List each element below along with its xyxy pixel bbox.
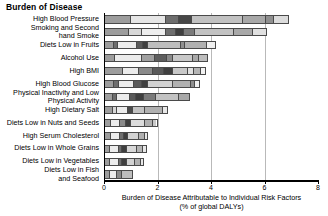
y-axis-label: Diets Low in Fruits <box>0 41 99 49</box>
bar-segment <box>105 94 113 100</box>
stacked-bar[interactable] <box>104 145 147 153</box>
x-tick-label: 8 <box>316 184 320 191</box>
bar-row[interactable] <box>104 145 318 153</box>
x-tick-label: 4 <box>209 184 213 191</box>
y-axis-label: Diets Low in Fish and Seafood <box>0 166 99 183</box>
bar-row[interactable] <box>104 170 318 178</box>
bar-segment <box>156 94 180 100</box>
bar-segment <box>105 55 115 61</box>
bar-segment <box>110 146 119 152</box>
stacked-bar[interactable] <box>104 41 216 49</box>
bar-segment <box>173 68 187 74</box>
bar-segment <box>117 107 129 113</box>
bar-segment <box>105 42 114 48</box>
bar-row[interactable] <box>104 28 318 36</box>
bar-row[interactable] <box>104 54 318 62</box>
stacked-bar[interactable] <box>104 15 289 23</box>
stacked-bar[interactable] <box>104 54 208 62</box>
stacked-bar[interactable] <box>104 132 148 140</box>
bar-segment <box>131 16 165 22</box>
stacked-bar[interactable] <box>104 28 267 36</box>
bar-segment <box>143 146 146 152</box>
bar-segment <box>166 29 177 35</box>
bar-segment <box>105 81 114 87</box>
bar-segment <box>144 94 156 100</box>
y-axis-label: Diets Low in Nuts and Seeds <box>0 119 99 127</box>
x-tick-label: 0 <box>102 184 106 191</box>
bar-segment <box>234 29 252 35</box>
bar-segment <box>128 133 139 139</box>
bar-segment <box>195 81 199 87</box>
y-axis-label: High Serum Cholesterol <box>0 132 99 140</box>
bar-segment <box>105 29 129 35</box>
bar-segment <box>253 29 266 35</box>
bar-row[interactable] <box>104 119 318 127</box>
bar-segment <box>155 55 167 61</box>
y-axis-label: Diets Low in Whole Grains <box>0 144 99 152</box>
stacked-bar[interactable] <box>104 119 158 127</box>
bar-segment <box>105 107 113 113</box>
bar-row[interactable] <box>104 15 318 23</box>
bar-segment <box>145 133 148 139</box>
bar-row[interactable] <box>104 80 318 88</box>
burden-of-disease-chart: Burden of Disease High Blood PressureSmo… <box>0 0 328 216</box>
bar-row[interactable] <box>104 67 318 75</box>
bar-segment <box>199 55 207 61</box>
bar-segment <box>184 29 195 35</box>
bar-segment <box>192 16 242 22</box>
bar-segment <box>127 146 137 152</box>
x-tick-label: 6 <box>263 184 267 191</box>
bar-segment <box>115 55 141 61</box>
bar-segment <box>105 16 131 22</box>
bar-segment <box>207 42 215 48</box>
bar-segment <box>129 29 142 35</box>
bar-segment <box>118 42 136 48</box>
bar-segment <box>274 16 287 22</box>
bar-segment <box>127 159 136 165</box>
bar-segment <box>185 42 207 48</box>
x-axis-label: Burden of Disease Attributable to Indivi… <box>104 193 319 211</box>
bar-segment <box>142 29 166 35</box>
bar-segment <box>266 16 274 22</box>
bar-row[interactable] <box>104 106 318 114</box>
bar-row[interactable] <box>104 132 318 140</box>
y-axis-line <box>104 13 105 181</box>
stacked-bar[interactable] <box>104 80 200 88</box>
y-axis-category-labels: High Blood PressureSmoking and Second ha… <box>0 0 101 216</box>
stacked-bar[interactable] <box>104 67 206 75</box>
stacked-bar[interactable] <box>104 158 144 166</box>
stacked-bar[interactable] <box>104 106 168 114</box>
bar-segment <box>243 16 267 22</box>
bar-segment <box>134 81 142 87</box>
y-axis-label: Smoking and Second hand Smoke <box>0 24 99 41</box>
stacked-bar[interactable] <box>104 170 133 178</box>
y-axis-label: Physical Inactivity and Low Physical Act… <box>0 89 99 106</box>
bar-segment <box>164 68 173 74</box>
y-axis-label: High Dietary Salt <box>0 106 99 114</box>
bar-segment <box>139 68 153 74</box>
bar-segment <box>176 29 184 35</box>
bar-segment <box>148 42 181 48</box>
bar-row[interactable] <box>104 158 318 166</box>
bar-segment <box>141 159 144 165</box>
bar-row[interactable] <box>104 93 318 101</box>
bar-segment <box>142 55 155 61</box>
bar-segment <box>148 81 173 87</box>
bar-segment <box>173 81 191 87</box>
y-axis-label: Alcohol Use <box>0 54 99 62</box>
bar-segment <box>145 107 163 113</box>
bar-segment <box>111 120 120 126</box>
bar-segment <box>153 120 157 126</box>
stacked-bar[interactable] <box>104 93 190 101</box>
bar-segment <box>166 16 179 22</box>
bar-segment <box>173 55 193 61</box>
bar-segment <box>119 81 133 87</box>
bar-segment <box>145 120 153 126</box>
bar-segment <box>201 68 205 74</box>
bar-segment <box>110 171 117 177</box>
x-tick-label: 2 <box>156 184 160 191</box>
bar-segment <box>117 94 130 100</box>
bar-row[interactable] <box>104 41 318 49</box>
bar-segment <box>195 29 235 35</box>
plot-area <box>104 13 318 181</box>
